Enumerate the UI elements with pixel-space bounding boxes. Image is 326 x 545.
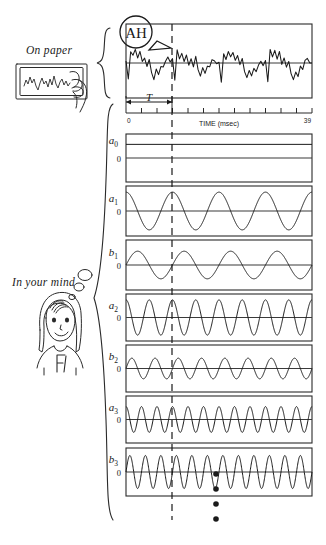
panel-zero-label: 0: [117, 313, 121, 323]
paper-in-hand-illustration: [16, 64, 87, 112]
waveform-panel-frame: [126, 24, 312, 98]
panel-zero-label: 0: [117, 261, 121, 271]
arrow-head-right: [167, 99, 172, 104]
eye-right: [65, 317, 69, 322]
panel-label-b2: b2: [109, 350, 119, 365]
panel-label-b3: b3: [109, 453, 119, 468]
on-paper-label: On paper: [26, 44, 72, 56]
panel-zero-label: 0: [117, 415, 121, 425]
brace-on-paper: [97, 28, 110, 98]
period-marker-label: T: [146, 91, 153, 103]
time-axis-start-label: 0: [127, 117, 131, 124]
component-panel-b1: b10: [109, 240, 312, 290]
arrow-head-left: [126, 99, 131, 104]
panel-label-b1: b1: [109, 246, 119, 261]
speech-bubble-ah: AH: [120, 16, 171, 50]
ellipsis-dot: [213, 471, 219, 477]
ellipsis-dot: [213, 486, 219, 492]
panel-label-a0: a0: [109, 134, 119, 149]
speech-bubble-text: AH: [125, 25, 147, 41]
panel-zero-label: 0: [117, 468, 121, 478]
thought-bubble-large: [78, 270, 92, 281]
speech-bubble-tail: [149, 41, 171, 50]
panel-label-a2: a2: [109, 299, 119, 314]
component-panel-b2: b20: [109, 345, 312, 392]
panel-zero-label: 0: [117, 364, 121, 374]
ellipsis-dot: [213, 516, 219, 522]
time-axis: 0 39 TIME (msec): [126, 108, 312, 128]
figure-canvas: AH T 0 39 TIME (msec) a00a10b10a20b20a30…: [0, 0, 326, 545]
mouth-smile: [55, 332, 68, 336]
time-axis-ticks: [126, 108, 312, 113]
panel-zero-label: 0: [117, 207, 121, 217]
panel-zero-label: 0: [117, 154, 121, 164]
panel-label-a1: a1: [109, 192, 119, 207]
ellipsis-dot: [213, 501, 219, 507]
fourier-component-panels: a00a10b10a20b20a30b30: [109, 134, 312, 496]
component-panel-a1: a10: [109, 186, 312, 236]
speech-waveform-trace: [126, 49, 312, 82]
time-axis-title: TIME (msec): [199, 120, 239, 128]
component-panel-a0: a00: [109, 134, 312, 182]
component-panel-a3: a30: [109, 396, 312, 443]
component-panel-a2: a20: [109, 294, 312, 341]
thought-bubble-medium: [74, 283, 84, 291]
time-axis-end-label: 39: [304, 117, 312, 124]
waveform-panel-on-paper: [126, 24, 312, 98]
component-panel-b3: b30: [109, 448, 312, 496]
period-marker-T: T: [126, 91, 172, 108]
in-your-mind-label: In your mind: [12, 276, 75, 288]
eye-left: [52, 317, 56, 322]
panel-label-a3: a3: [109, 401, 119, 416]
figure-fourier-series-illustration: On paper In your mind: [0, 0, 326, 545]
